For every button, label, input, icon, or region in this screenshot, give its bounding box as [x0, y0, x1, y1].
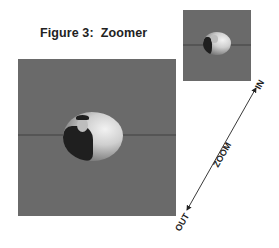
zoom-arrow-diagram: ZOOM IN OUT	[0, 0, 279, 248]
zoom-label: ZOOM	[211, 141, 233, 169]
out-label: OUT	[173, 211, 191, 233]
